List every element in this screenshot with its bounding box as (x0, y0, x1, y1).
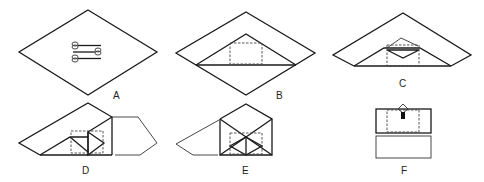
panel-c-drawing (333, 13, 471, 66)
panel-f-drawing (376, 104, 431, 158)
panel-label-a: A (113, 90, 120, 101)
panel-label-e: E (242, 165, 249, 176)
panel-d-drawing (19, 103, 157, 155)
panel-label-f: F (401, 165, 407, 176)
panel-e-drawing (176, 104, 272, 155)
tuck-tab-icon (401, 112, 405, 119)
wrapping-diagram (0, 0, 484, 182)
panel-b-drawing (176, 12, 315, 95)
panel-a-drawing (19, 10, 157, 95)
instruments-icon (72, 42, 101, 62)
panel-label-b: B (276, 90, 283, 101)
panel-label-d: D (82, 165, 89, 176)
panel-label-c: C (399, 78, 406, 89)
